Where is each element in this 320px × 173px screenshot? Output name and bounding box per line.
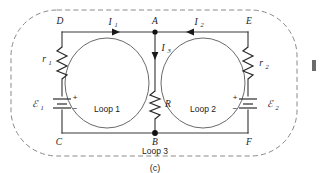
circuit-figure: D A E C B F I 1 I 2 I 3 r 1 r 2 R ℰ (0, 0, 320, 173)
resistor-label-r1: r 1 (42, 54, 51, 66)
current-i3-arrowhead (152, 52, 159, 60)
current-i2-arrowhead (186, 29, 194, 36)
node-label-c: C (56, 137, 63, 147)
current-i1-arrowhead (112, 29, 120, 36)
battery-label-e2-subscript: 2 (275, 104, 279, 111)
battery-e1-plus-sign: + (73, 93, 78, 102)
current-label-i3: I 3 (160, 43, 171, 54)
current-label-i2-symbol: I (193, 17, 198, 27)
battery-label-e2-symbol: ℰ (267, 99, 274, 109)
current-label-i3-symbol: I (160, 43, 165, 53)
resistor-label-r1-symbol: r (42, 54, 46, 64)
loop-2-label: Loop 2 (190, 104, 216, 114)
node-label-f: F (245, 137, 252, 147)
battery-label-e2: ℰ 2 (267, 99, 279, 111)
loop-2-outline (161, 38, 245, 128)
node-b-dot (152, 130, 158, 136)
cropped-edge-mark (312, 60, 316, 71)
loop-1-outline (65, 38, 149, 128)
current-label-i1-symbol: I (107, 17, 112, 27)
node-label-a: A (151, 16, 158, 26)
current-label-i1-subscript: 1 (114, 21, 117, 28)
resistor-r1-symbol (57, 47, 67, 79)
battery-e2-plus-sign: + (233, 93, 238, 102)
node-label-d: D (56, 16, 64, 26)
current-label-i2-subscript: 2 (200, 21, 204, 28)
resistor-label-r1-subscript: 1 (48, 59, 51, 66)
kirchhoff-circuit-diagram: D A E C B F I 1 I 2 I 3 r 1 r 2 R ℰ (0, 0, 320, 173)
battery-e2-minus-sign: − (233, 104, 238, 113)
battery-label-e1: ℰ 1 (32, 99, 44, 111)
current-label-i2: I 2 (193, 17, 204, 28)
node-label-e: E (245, 16, 252, 26)
current-label-i3-subscript: 3 (166, 47, 171, 54)
battery-label-e1-subscript: 1 (40, 104, 43, 111)
resistor-label-r2: r 2 (259, 58, 269, 70)
resistor-label-R: R (164, 99, 171, 109)
resistor-label-r2-symbol: r (259, 58, 263, 68)
loop-3-label: Loop 3 (142, 146, 168, 156)
figure-caption: (c) (150, 163, 161, 173)
node-a-dot (152, 29, 157, 34)
loop-1-label: Loop 1 (94, 104, 120, 114)
battery-label-e1-symbol: ℰ (32, 99, 39, 109)
resistor-label-r2-subscript: 2 (265, 63, 269, 70)
battery-e1-minus-sign: − (73, 104, 78, 113)
resistor-R-symbol (150, 91, 160, 119)
current-label-i1: I 1 (107, 17, 117, 28)
